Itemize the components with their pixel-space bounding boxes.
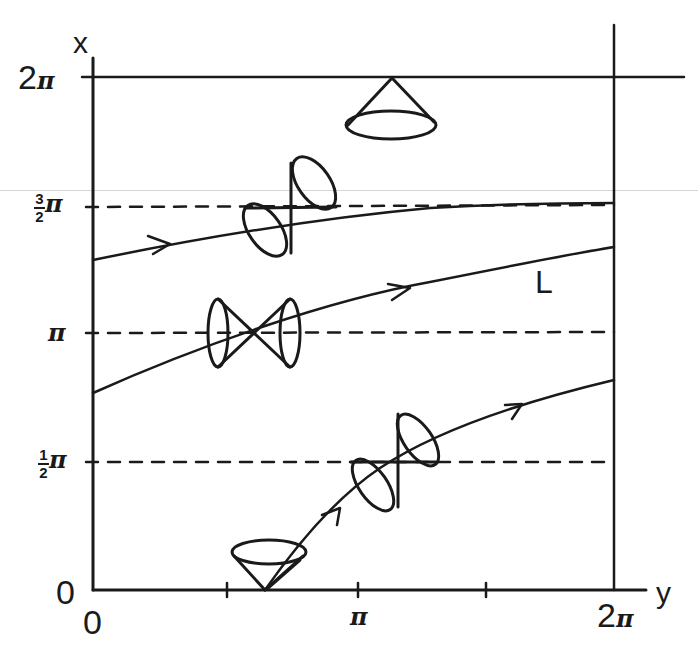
diagram-canvas: x 2π 32π π 12π 0 0 π 2π y L — [0, 0, 698, 655]
lower-curve — [265, 380, 614, 590]
tick-label-x-half-pi: 12π — [38, 448, 67, 480]
light-cone-top-icon — [346, 78, 436, 139]
diagram-drawing — [0, 0, 698, 655]
light-cone-three-halves-pi-icon — [235, 149, 345, 264]
tick-label-x-pi: π — [48, 321, 66, 345]
tick-label-y-pi: π — [350, 605, 368, 629]
tick-label-y-zero: 0 — [83, 605, 102, 639]
curve-L-label: L — [535, 266, 553, 298]
horizontal-axis-label: y — [656, 578, 671, 608]
lower-curve-arrow-icon-2 — [505, 404, 522, 419]
upper-curve — [93, 203, 614, 260]
curve-L-arrow-icon — [388, 284, 410, 300]
dashed-line-three-halves-pi — [86, 205, 614, 207]
dashed-line-pi — [86, 332, 614, 333]
tick-label-x-zero: 0 — [56, 575, 75, 609]
tick-label-x-2pi: 2π — [18, 60, 55, 94]
upper-curve-arrow-icon — [148, 236, 170, 254]
vertical-axis-label: x — [73, 28, 88, 58]
tick-label-x-three-halves-pi: 32π — [34, 192, 63, 224]
light-cone-half-pi-icon — [344, 407, 446, 517]
tick-label-y-2pi: 2π — [597, 598, 634, 632]
